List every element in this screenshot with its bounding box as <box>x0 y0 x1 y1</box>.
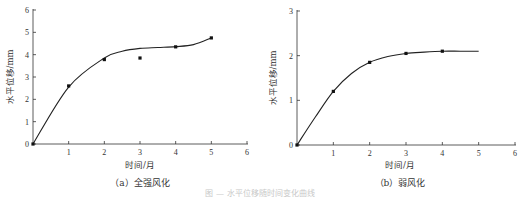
y-tick-label: 1 <box>25 118 29 127</box>
x-tick-label: 4 <box>440 149 444 158</box>
x-tick-label: 6 <box>245 148 249 157</box>
data-point <box>441 50 444 53</box>
x-tick-label: 2 <box>102 148 106 157</box>
y-tick-label: 3 <box>289 7 293 16</box>
y-tick-label: 5 <box>25 28 29 37</box>
x-tick-label: 2 <box>368 149 372 158</box>
chart-a: 0123456 123456 水平位移/mm 时间/月 （a）全强风化 <box>5 6 249 188</box>
data-point <box>67 84 70 87</box>
data-point <box>332 90 335 93</box>
x-tick-label: 1 <box>331 149 335 158</box>
x-tick-label: 1 <box>67 148 71 157</box>
chart-b-caption: （b）弱风化 <box>375 177 426 188</box>
chart-b-x-ticks: 123456 <box>331 142 517 158</box>
y-tick-label: 4 <box>25 51 29 60</box>
y-tick-label: 3 <box>25 73 29 82</box>
chart-a-caption: （a）全强风化 <box>110 177 169 188</box>
chart-a-data-points <box>31 36 213 145</box>
figure: 0123456 123456 水平位移/mm 时间/月 （a）全强风化 0123… <box>0 0 520 197</box>
chart-a-x-label: 时间/月 <box>125 160 155 170</box>
data-point <box>31 142 34 145</box>
chart-a-axes <box>33 9 248 144</box>
y-tick-label: 2 <box>289 52 293 61</box>
chart-b-fit-curve <box>297 51 479 145</box>
data-point <box>210 36 213 39</box>
x-tick-label: 5 <box>209 148 213 157</box>
y-tick-label: 2 <box>25 95 29 104</box>
chart-a-x-ticks: 123456 <box>67 141 249 157</box>
data-point <box>368 61 371 64</box>
y-tick-label: 6 <box>25 6 29 15</box>
y-tick-label: 0 <box>25 140 29 149</box>
y-tick-label: 0 <box>289 141 293 150</box>
chart-b-data-points <box>295 50 444 147</box>
figure-caption-faint: 图 — 水平位移随时间变化曲线 <box>205 188 314 197</box>
x-tick-label: 6 <box>513 149 517 158</box>
chart-a-fit-curve <box>33 38 211 144</box>
data-point <box>103 58 106 61</box>
data-point <box>174 45 177 48</box>
chart-b-y-label: 水平位移/mm <box>268 51 278 106</box>
chart-b-axes <box>297 10 516 145</box>
data-point <box>138 56 141 59</box>
chart-b-y-ticks: 0123 <box>289 7 300 150</box>
chart-b-x-label: 时间/月 <box>385 160 415 170</box>
chart-b: 0123 123456 水平位移/mm 时间/月 （b）弱风化 <box>268 7 517 188</box>
chart-a-y-label: 水平位移/mm <box>5 50 15 105</box>
data-point <box>404 52 407 55</box>
chart-a-y-ticks: 0123456 <box>25 6 36 149</box>
data-point <box>295 143 298 146</box>
x-tick-label: 3 <box>404 149 408 158</box>
x-tick-label: 3 <box>138 148 142 157</box>
x-tick-label: 4 <box>174 148 178 157</box>
x-tick-label: 5 <box>477 149 481 158</box>
y-tick-label: 1 <box>289 96 293 105</box>
